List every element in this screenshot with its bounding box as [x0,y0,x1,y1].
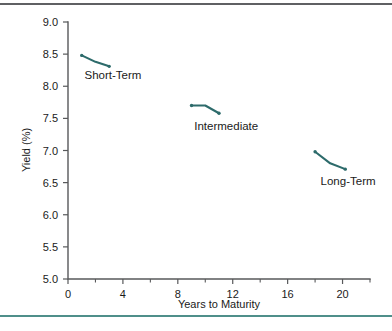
y-axis-tick-label: 6.5 [43,177,58,189]
series-endpoint-marker [107,65,110,68]
series-annotation-intermediate: Intermediate [194,120,258,132]
series-line-intermediate [192,106,219,114]
series-endpoint-marker [344,167,347,170]
x-axis-tick-label: 4 [120,288,126,300]
page-rule-top [0,3,392,5]
axis-spine [68,22,370,279]
y-axis-tick-label: 9.0 [43,16,58,28]
series-endpoint-marker [313,150,316,153]
y-axis-tick-group [63,22,68,279]
y-axis-tick-label: 5.0 [43,273,58,285]
series-annotation-group: Short-TermIntermediateLong-Term [84,69,375,188]
y-axis-title: Yield (%) [20,128,32,172]
series-endpoint-marker [217,112,220,115]
series-annotation-long-term: Long-Term [321,175,376,187]
y-axis-tick-label: 7.5 [43,112,58,124]
yield-curve-figure: 5.05.56.06.57.07.58.08.59.0 048121620 Sh… [0,8,392,313]
series-line-short-term [82,55,109,66]
y-axis-tick-label: 8.5 [43,48,58,60]
x-axis-tick-label: 0 [65,288,71,300]
series-endpoint-marker [190,104,193,107]
y-axis-tick-label: 5.5 [43,241,58,253]
series-endpoint-marker [80,54,83,57]
y-axis-tick-label: 6.0 [43,209,58,221]
x-axis-tick-label: 16 [282,288,294,300]
y-axis-tick-label: 8.0 [43,80,58,92]
page-rule-bottom [0,315,392,317]
chart-canvas: 5.05.56.06.57.07.58.08.59.0 048121620 Sh… [0,8,392,313]
y-axis-tick-label: 7.0 [43,145,58,157]
x-axis-title: Years to Maturity [178,298,261,310]
series-line-long-term [315,152,345,169]
x-axis-tick-label: 20 [336,288,348,300]
y-axis-label-group: 5.05.56.06.57.07.58.08.59.0 [43,16,58,285]
series-annotation-short-term: Short-Term [84,69,141,81]
